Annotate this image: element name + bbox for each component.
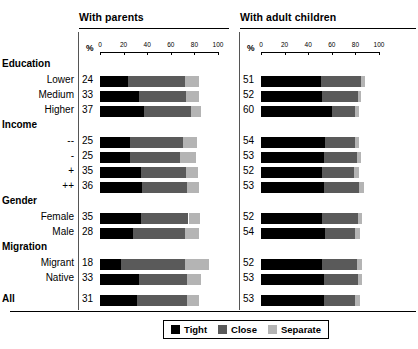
bar-left-native <box>100 274 218 285</box>
axis-tick-0 <box>261 52 262 55</box>
legend-label-close: Close <box>231 324 257 335</box>
bar-segment-separate <box>187 182 199 193</box>
legend-label-tight: Tight <box>184 324 207 335</box>
bar-segment-close <box>325 137 356 148</box>
bar-segment-separate <box>187 274 201 285</box>
row-value-left-minusminus: 25 <box>82 135 102 146</box>
bar-segment-separate <box>355 228 360 239</box>
axis-tick-40 <box>147 52 148 55</box>
axis-with-adult-children: % 020406080100 <box>247 40 383 56</box>
footer-rule <box>10 311 416 312</box>
bar-segment-separate <box>186 91 199 102</box>
bar-left-minusminus <box>100 137 218 148</box>
row-label-minus: - <box>2 150 74 161</box>
bar-segment-separate <box>183 137 197 148</box>
row-value-left-migrant: 18 <box>82 257 102 268</box>
bar-right-plus <box>261 167 379 178</box>
bar-segment-separate <box>187 295 199 306</box>
row-label-female: Female <box>2 211 74 222</box>
bar-right-migrant <box>261 259 379 270</box>
bar-segment-separate <box>358 213 363 224</box>
axis-tick-0 <box>100 52 101 55</box>
bar-right-lower <box>261 76 379 87</box>
group-heading-gender: Gender <box>2 195 74 206</box>
bar-segment-close <box>324 295 356 306</box>
axis-tick-label-40: 40 <box>144 41 151 48</box>
bar-segment-close <box>332 106 356 117</box>
bar-segment-tight <box>261 137 325 148</box>
bar-segment-separate <box>185 228 199 239</box>
bar-segment-tight <box>100 182 142 193</box>
bar-segment-close <box>142 182 187 193</box>
axis-tick-label-100: 100 <box>213 41 224 48</box>
bar-segment-separate <box>355 137 359 148</box>
bar-segment-separate <box>355 295 360 306</box>
bar-segment-separate <box>186 167 198 178</box>
axis-tick-label-80: 80 <box>191 41 198 48</box>
axis-tick-60 <box>171 52 172 55</box>
axis-unit-label-left: % <box>86 43 94 53</box>
row-label-minusminus: -- <box>2 135 74 146</box>
bar-right-native <box>261 274 379 285</box>
bar-segment-close <box>133 228 185 239</box>
axis-tick-label-0: 0 <box>259 41 263 48</box>
row-label-lower: Lower <box>2 74 74 85</box>
bar-segment-close <box>324 152 357 163</box>
row-value-right-all: 53 <box>243 293 263 304</box>
axis-tick-label-100: 100 <box>374 41 385 48</box>
bar-segment-separate <box>357 259 363 270</box>
row-value-right-minus: 53 <box>243 150 263 161</box>
bar-segment-tight <box>261 259 322 270</box>
bar-segment-close <box>321 76 361 87</box>
bar-left-plus <box>100 167 218 178</box>
bar-segment-tight <box>100 213 141 224</box>
bar-segment-tight <box>100 137 130 148</box>
bar-segment-tight <box>261 228 325 239</box>
bar-left-medium <box>100 91 218 102</box>
row-value-right-medium: 52 <box>243 89 263 100</box>
bar-left-male <box>100 228 218 239</box>
bar-segment-close <box>324 182 359 193</box>
bar-segment-tight <box>100 76 128 87</box>
bar-segment-separate <box>358 274 363 285</box>
bar-segment-close <box>322 213 357 224</box>
bar-segment-close <box>322 259 356 270</box>
bar-segment-tight <box>261 91 322 102</box>
bar-segment-tight <box>100 274 139 285</box>
row-value-left-female: 35 <box>82 211 102 222</box>
chart-legend: TightCloseSeparate <box>163 320 329 339</box>
bar-right-minusminus <box>261 137 379 148</box>
bar-segment-tight <box>100 259 121 270</box>
bar-segment-tight <box>261 295 324 306</box>
bar-segment-tight <box>100 106 144 117</box>
row-value-left-male: 28 <box>82 226 102 237</box>
row-value-right-native: 53 <box>243 272 263 283</box>
bar-segment-separate <box>185 76 199 87</box>
bar-left-higher <box>100 106 218 117</box>
bar-left-plusplus <box>100 182 218 193</box>
axis-tick-20 <box>124 52 125 55</box>
legend-item-separate: Separate <box>268 324 321 335</box>
bar-segment-close <box>322 91 357 102</box>
legend-item-close: Close <box>218 324 257 335</box>
panel-title-underline-left <box>79 28 229 29</box>
group-heading-migration: Migration <box>2 241 74 252</box>
row-value-right-minusminus: 54 <box>243 135 263 146</box>
bar-segment-separate <box>358 91 362 102</box>
bar-segment-tight <box>261 182 324 193</box>
panel-divider-right <box>239 32 240 310</box>
row-value-right-male: 54 <box>243 226 263 237</box>
panel-divider-left <box>78 32 79 310</box>
axis-tick-label-20: 20 <box>120 41 127 48</box>
bar-segment-close <box>325 228 356 239</box>
axis-tick-label-20: 20 <box>281 41 288 48</box>
bar-left-female <box>100 213 218 224</box>
bar-segment-tight <box>261 213 322 224</box>
legend-swatch-separate <box>268 325 277 334</box>
panel-title-with-parents: With parents <box>79 11 144 23</box>
row-value-left-medium: 33 <box>82 89 102 100</box>
row-label-male: Male <box>2 226 74 237</box>
bar-segment-tight <box>100 228 133 239</box>
bar-segment-separate <box>185 259 209 270</box>
group-heading-income: Income <box>2 119 74 130</box>
